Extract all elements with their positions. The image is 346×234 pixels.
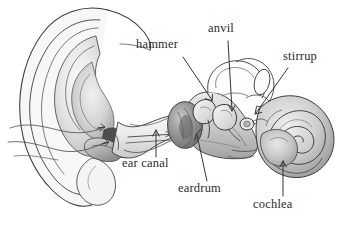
ear-anatomy-figure: hammer anvil stirrup ear canal eardrum c… [0, 0, 346, 234]
label-cochlea: cochlea [253, 198, 293, 211]
outer-ear-pinna [8, 8, 151, 206]
label-anvil: anvil [208, 22, 234, 35]
ear-diagram-illustration [0, 0, 346, 234]
label-stirrup: stirrup [283, 50, 317, 63]
label-eardrum: eardrum [178, 182, 221, 195]
label-ear-canal: ear canal [122, 157, 169, 170]
label-hammer: hammer [136, 38, 178, 51]
